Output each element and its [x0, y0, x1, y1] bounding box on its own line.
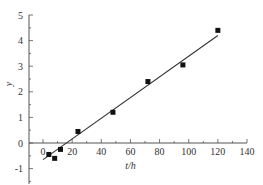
y-axis-label: y: [3, 81, 14, 87]
data-point: [215, 28, 220, 33]
y-tick-label: 2: [18, 86, 23, 97]
axis-labels: -1012345020406080100120140t/hy: [3, 10, 255, 175]
x-axis-label: t/h: [125, 160, 136, 171]
y-tick-label: -1: [15, 163, 23, 174]
data-point: [180, 62, 185, 67]
axes: [29, 15, 247, 184]
data-point: [58, 147, 63, 152]
data-point: [75, 129, 80, 134]
y-tick-label: 1: [18, 112, 23, 123]
data-point: [46, 152, 51, 157]
y-tick-label: 4: [18, 35, 23, 46]
data-point: [145, 79, 150, 84]
x-tick-label: 100: [181, 146, 196, 157]
y-tick-label: 5: [18, 10, 23, 21]
x-tick-label: 80: [155, 146, 165, 157]
x-tick-label: 140: [240, 146, 255, 157]
x-tick-label: 20: [67, 146, 77, 157]
x-tick-label: 60: [125, 146, 135, 157]
x-tick-label: 120: [210, 146, 225, 157]
scatter-chart: -1012345020406080100120140t/hy: [0, 0, 263, 185]
x-tick-label: 0: [41, 146, 46, 157]
data-point: [52, 156, 57, 161]
data-point: [110, 110, 115, 115]
x-tick-label: 40: [96, 146, 106, 157]
y-tick-label: 0: [18, 138, 23, 149]
y-tick-label: 3: [18, 61, 23, 72]
